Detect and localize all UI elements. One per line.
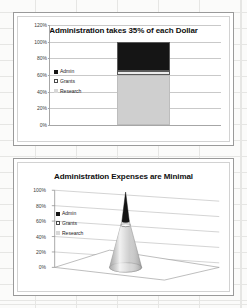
tickmark [48,108,50,109]
legend-swatch-admin-icon [54,70,58,74]
legend-item-grants[interactable]: Grants [56,221,83,226]
tickmark [48,42,50,43]
ytick-label: 0% [39,264,46,270]
legend-label-admin: Admin [60,69,74,74]
legend-swatch-grants-icon [56,221,60,225]
ytick-label: 60% [36,218,46,224]
legend-label-research: Research [60,89,81,94]
cone-axis-ticks [52,190,55,267]
ytick-label: 0% [40,122,47,128]
chart-cone-title: Administration Expenses are Minimal [18,172,229,181]
bar-segment-grants[interactable] [117,71,170,75]
ytick-label: 120% [34,22,47,28]
tickmark [48,58,50,59]
chart-stacked-column[interactable]: Administration takes 35% of each Dollar … [13,12,234,146]
ytick-label: 20% [36,249,46,255]
tickmark [48,92,50,93]
chart-cone-legend[interactable]: Admin Grants Research [56,211,83,240]
stacked-column-bar[interactable] [117,25,170,125]
ytick-label: 80% [37,55,47,61]
chart-cone-3d[interactable]: Administration Expenses are Minimal [13,158,234,296]
ytick-label: 40% [37,89,47,95]
bar-segment-admin[interactable] [117,42,170,71]
tickmark [48,125,50,126]
tickmark [48,25,50,26]
legend-item-admin[interactable]: Admin [56,211,83,216]
legend-swatch-admin-icon [56,212,60,216]
chart-cone-plot-frame: Administration Expenses are Minimal [17,162,230,292]
tickmark [48,75,50,76]
ytick-label: 20% [37,105,47,111]
cone-grants-ellipse [121,224,130,227]
ytick-label: 100% [34,39,47,45]
ytick-label: 40% [36,234,46,240]
legend-label-grants: Grants [62,221,77,226]
chart-stacked-legend[interactable]: Admin Grants Research [54,69,81,98]
legend-item-admin[interactable]: Admin [54,69,81,74]
legend-label-research: Research [62,231,83,236]
legend-item-research[interactable]: Research [54,89,81,94]
legend-label-grants: Grants [60,79,75,84]
legend-item-research[interactable]: Research [56,231,83,236]
legend-item-grants[interactable]: Grants [54,79,81,84]
legend-swatch-grants-icon [54,79,58,83]
cone-segment-admin [122,192,129,222]
legend-label-admin: Admin [62,211,76,216]
legend-swatch-research-icon [54,89,58,93]
chart-stacked-plot-frame: Administration takes 35% of each Dollar … [17,16,230,142]
ytick-label: 60% [37,72,47,78]
ytick-label: 100% [33,187,46,193]
bar-segment-research[interactable] [117,75,170,125]
legend-swatch-research-icon [56,231,60,235]
ytick-label: 80% [36,203,46,209]
